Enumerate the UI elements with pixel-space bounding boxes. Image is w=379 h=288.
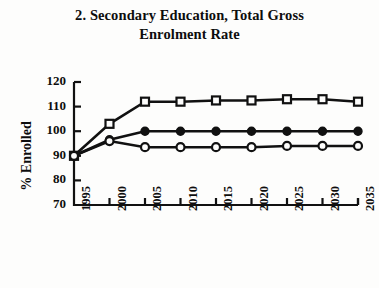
chart-title-line-2: Enrolment Rate bbox=[0, 25, 379, 44]
chart-plot-svg bbox=[0, 62, 379, 288]
chart-title: 2. Secondary Education, Total Gross Enro… bbox=[0, 6, 379, 44]
chart-figure: 2. Secondary Education, Total Gross Enro… bbox=[0, 0, 379, 288]
plot-area: % Enrolled Year 120110100908070 19952000… bbox=[0, 62, 379, 288]
chart-title-line-1: 2. Secondary Education, Total Gross bbox=[75, 7, 304, 23]
